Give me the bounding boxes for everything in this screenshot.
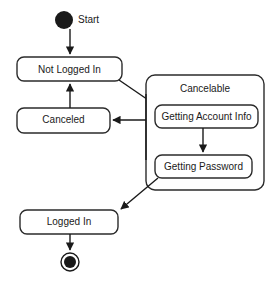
state-not-logged-in-label: Not Logged In (38, 64, 101, 75)
state-logged-in-label: Logged In (47, 216, 92, 227)
composite-state-cancelable-label: Cancelable (180, 83, 230, 94)
state-getting-account-info-label: Getting Account Info (161, 111, 251, 122)
state-diagram: Start Not Logged In Cancelable Getting A… (0, 0, 272, 290)
state-getting-password-label: Getting Password (164, 161, 243, 172)
state-canceled-label: Canceled (42, 114, 84, 125)
final-state-icon (64, 256, 76, 268)
transition-cancelable-to-logged-in (121, 178, 158, 209)
initial-state-label: Start (78, 14, 99, 25)
initial-state-icon (55, 11, 73, 29)
state-diagram-canvas: Start Not Logged In Cancelable Getting A… (0, 0, 272, 290)
